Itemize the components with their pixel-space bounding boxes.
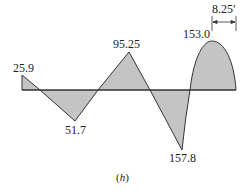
- value-label-25-9: 25.9: [13, 62, 34, 74]
- region-negative-2: [150, 90, 190, 150]
- value-label-157-8: 157.8: [169, 152, 196, 164]
- region-negative-1: [40, 90, 98, 121]
- value-label-95-25: 95.25: [113, 38, 140, 50]
- region-positive-parabola: [190, 41, 236, 90]
- caption-letter: h: [120, 171, 126, 183]
- value-label-153-0: 153.0: [183, 28, 210, 40]
- value-label-51-7: 51.7: [65, 124, 86, 136]
- dimension-label: 8.25′: [212, 3, 236, 15]
- dimension-marker: [212, 16, 236, 31]
- region-positive-2: [98, 52, 150, 90]
- region-positive-1: [22, 75, 40, 90]
- figure-caption: (h): [116, 172, 129, 183]
